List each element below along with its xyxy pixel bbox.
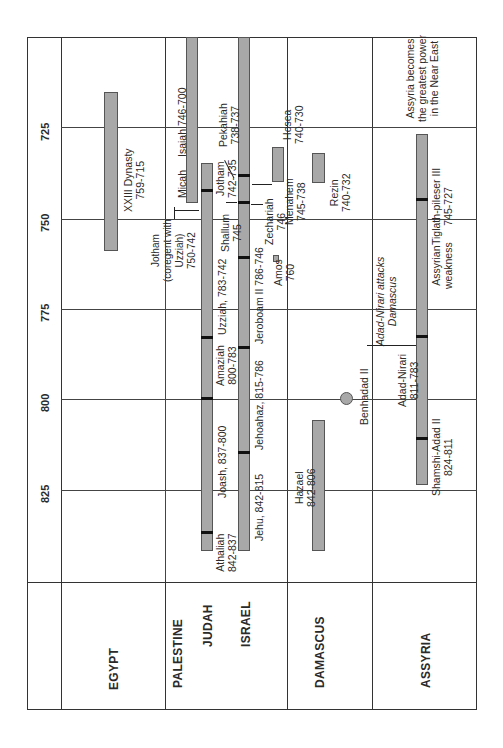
gridline-725	[61, 127, 477, 128]
tick-israel-815	[238, 451, 250, 454]
tick-judah-800	[201, 397, 213, 400]
tick-israel-738	[238, 174, 250, 177]
label-rezin: Rezin 740-732	[328, 173, 352, 212]
country-palestine: PALESTINE	[172, 619, 184, 688]
label-tiglath-pileser: Tiglath-pileser III 745-727	[430, 168, 454, 245]
tick-assyria-745	[416, 198, 428, 201]
label-benhadad: Benhadad II	[358, 368, 370, 425]
bar-xxiii-dynasty	[104, 92, 118, 251]
country-egypt: EGYPT	[108, 648, 120, 690]
gridline-775	[61, 309, 477, 310]
label-jotham-coregent: Jotham (coregent with Uzziah) 750-742	[150, 219, 198, 282]
bar-judah	[201, 163, 213, 551]
year-label-825: 825	[39, 485, 51, 503]
label-adad-nirari-attacks: Adad-Nirari attacks Damascus	[374, 257, 398, 346]
zechariah-arrow	[251, 204, 263, 205]
label-amaziah: Amaziah 800-783	[214, 345, 238, 386]
jotham-coregent-arrow	[175, 210, 199, 211]
attack-arrow	[367, 345, 416, 346]
label-pekahiah: Pekahiah 738-737	[217, 103, 241, 147]
year-label-750: 750	[39, 214, 51, 232]
label-uzziah: Uzziah, 783-742	[216, 259, 228, 335]
year-label-725: 725	[39, 123, 51, 141]
label-assyrian-weakness: Assyrian weakness	[430, 242, 454, 289]
jotham-coregent-bracket	[174, 207, 175, 219]
tick-assyria-783	[416, 335, 428, 338]
label-amos: Amos 760	[272, 259, 296, 286]
year-label-775: 775	[39, 304, 51, 322]
damascus-assyria-divider	[372, 37, 373, 710]
label-jehu: Jehu, 842-815	[253, 474, 265, 541]
label-shallum: Shallum 745	[219, 214, 243, 252]
header-divider	[27, 582, 477, 583]
tick-israel-746	[238, 256, 250, 259]
label-hazael: Hazael 842-806	[293, 468, 317, 507]
shallum-arrow	[226, 202, 237, 203]
country-judah: JUDAH	[202, 604, 214, 647]
tick-israel-786	[238, 346, 250, 349]
tick-judah-742	[201, 189, 213, 192]
label-jehoahaz: Jehoahaz, 815-786	[253, 360, 265, 450]
tick-assyria-811	[416, 437, 428, 440]
label-zechariah: Zechariah 746	[263, 198, 287, 245]
benhadad-marker	[340, 392, 353, 405]
bar-hosea-menahem	[272, 147, 284, 182]
country-assyria: ASSYRIA	[420, 633, 432, 688]
bar-assyria	[416, 134, 428, 485]
label-adad-nirari: Adad-Nirari 811-783	[396, 354, 420, 407]
bar-rezin	[312, 153, 325, 183]
gridline-825	[61, 490, 477, 491]
label-hosea: Hosea 740-730	[281, 105, 305, 144]
label-xxiii-dynasty: XXIII Dynasty 759-715	[122, 148, 146, 212]
tick-israel-745	[238, 201, 250, 204]
label-athaliah: Athaliah 842-837	[214, 533, 238, 572]
tick-judah-837	[201, 531, 213, 534]
label-micah: Micah	[176, 170, 188, 198]
label-joash: Joash, 837-800	[216, 426, 228, 498]
menahem-arrow	[252, 184, 272, 185]
tick-judah-783	[201, 336, 213, 339]
year-column-divider	[61, 37, 62, 710]
country-israel: ISRAEL	[240, 601, 252, 647]
country-damascus: DAMASCUS	[314, 616, 326, 688]
label-jeroboam: Jeroboam II 786-746	[253, 247, 265, 344]
year-label-800: 800	[39, 394, 51, 412]
label-shamshi-adad: Shamshi-Adad II 824-811	[430, 418, 454, 496]
label-assyria-power: Assyria becomes the greatest power in th…	[404, 35, 440, 122]
palestine-inner-line	[165, 240, 166, 580]
label-isaiah: Isaiah 746-700	[176, 88, 188, 157]
